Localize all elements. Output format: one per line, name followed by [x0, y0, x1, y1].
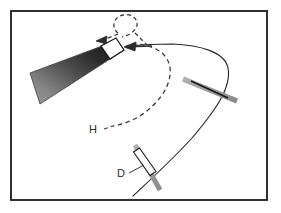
- figure-root: H D: [0, 0, 281, 213]
- page-background: [0, 0, 281, 213]
- arrow-left-lower-shaft: [135, 46, 152, 47]
- label-d: D: [117, 167, 125, 179]
- label-h: H: [89, 123, 97, 135]
- diagram-canvas: H D: [0, 0, 281, 213]
